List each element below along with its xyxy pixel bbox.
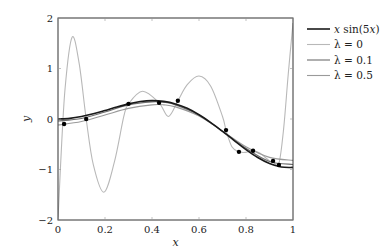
data-point (62, 122, 66, 126)
legend-label: x sin(5x) (334, 23, 380, 35)
x-tick-label: 0.6 (191, 224, 207, 235)
chart: 00.20.40.60.81 −2−1012 x y x sin(5x)λ = … (0, 0, 387, 252)
series-line-1 (58, 23, 293, 220)
plot-curves (58, 23, 293, 220)
y-tick-label: −2 (38, 215, 53, 226)
x-axis-ticks: 00.20.40.60.81 (55, 18, 296, 235)
series-line-0 (58, 101, 293, 168)
legend-label: λ = 0.5 (334, 69, 373, 81)
x-tick-label: 1 (290, 224, 296, 235)
data-point (176, 99, 180, 103)
x-tick-label: 0 (55, 224, 61, 235)
y-tick-label: 0 (47, 114, 53, 125)
data-point (224, 128, 228, 132)
x-axis-label: x (172, 236, 179, 249)
x-tick-label: 0.2 (97, 224, 113, 235)
y-tick-label: −1 (38, 164, 53, 175)
data-points (62, 99, 281, 168)
y-tick-label: 2 (47, 13, 53, 24)
y-tick-label: 1 (47, 63, 53, 74)
legend: x sin(5x)λ = 0λ = 0.1λ = 0.5 (307, 23, 380, 82)
data-point (237, 150, 241, 154)
series-line-2 (58, 102, 293, 165)
data-point (277, 163, 281, 167)
data-point (157, 101, 161, 105)
data-point (126, 102, 130, 106)
plot-frame (58, 18, 293, 220)
x-tick-label: 0.4 (144, 224, 160, 235)
y-axis-label: y (20, 115, 33, 123)
data-point (251, 149, 255, 153)
x-tick-label: 0.8 (238, 224, 254, 235)
data-point (271, 159, 275, 163)
legend-label: λ = 0 (334, 38, 363, 50)
legend-label: λ = 0.1 (334, 54, 373, 66)
data-point (84, 117, 88, 121)
